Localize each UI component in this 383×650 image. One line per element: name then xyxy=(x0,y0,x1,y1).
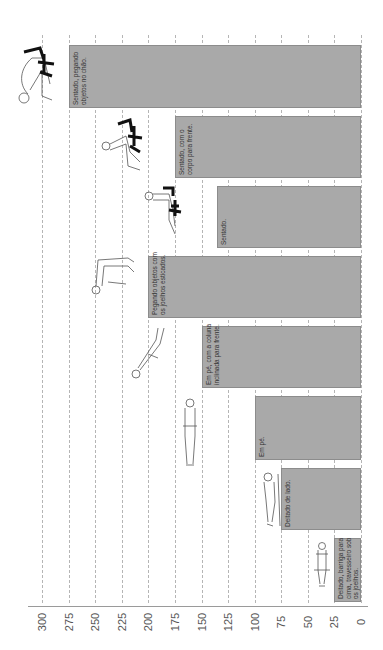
bar xyxy=(175,116,361,178)
sitting-picking-floor-icon xyxy=(14,44,60,112)
gridline xyxy=(69,35,70,603)
bar xyxy=(148,256,361,318)
bar-label: Sentado. xyxy=(220,219,228,245)
tick-label: 100 xyxy=(249,607,261,637)
tick-label: 200 xyxy=(142,607,154,637)
gridline xyxy=(361,35,362,603)
bar-label: Sentado, pegando objetos no chão. xyxy=(72,52,87,105)
tick-label: 50 xyxy=(302,607,314,637)
bar xyxy=(69,45,361,108)
gridline xyxy=(148,35,149,603)
standing-bent-forward-icon xyxy=(128,324,168,388)
standing-icon xyxy=(178,398,202,472)
rotated-bar-chart: 0255075100125150175200225250275300 Deita… xyxy=(0,0,383,650)
bar-label: Deitado, barriga para cima, travesseiro … xyxy=(337,538,360,599)
tick-label: 175 xyxy=(169,607,181,637)
gridline xyxy=(42,35,43,603)
bar-label: Em pé, com a coluna inclinada para frent… xyxy=(205,324,220,385)
tick-label: 275 xyxy=(63,607,75,637)
tick-label: 0 xyxy=(355,607,367,637)
gridline xyxy=(95,35,96,603)
tick-label: 125 xyxy=(222,607,234,637)
bar-label: Deitado de lado. xyxy=(284,480,292,527)
bar-label: Sentado, com o corpo para frente. xyxy=(178,124,193,175)
bending-straight-knees-icon xyxy=(88,252,138,306)
tick-label: 75 xyxy=(275,607,287,637)
lying-on-side-icon xyxy=(258,470,284,534)
bar xyxy=(255,396,361,460)
lying-on-back-icon xyxy=(311,540,333,594)
bar xyxy=(281,468,361,530)
bar-label: Pegando objetos com os joelhos esticados… xyxy=(151,252,166,315)
sitting-leaning-forward-icon xyxy=(100,116,146,180)
tick-label: 150 xyxy=(196,607,208,637)
tick-label: 25 xyxy=(328,607,340,637)
bar xyxy=(217,186,361,248)
tick-label: 225 xyxy=(116,607,128,637)
tick-label: 250 xyxy=(89,607,101,637)
bar-label: Em pé. xyxy=(258,436,266,457)
sitting-icon xyxy=(143,186,183,250)
bar xyxy=(202,326,362,388)
tick-label: 300 xyxy=(36,607,48,637)
